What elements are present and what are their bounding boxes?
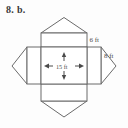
left-triangle-flap bbox=[12, 47, 27, 84]
right-rect-flap bbox=[87, 47, 101, 84]
label-center-width: 15 ft bbox=[56, 63, 68, 70]
bottom-rect-flap bbox=[41, 84, 87, 101]
label-top-flap-height: 6 ft bbox=[90, 36, 100, 44]
label-right-triangle-side: 8 ft bbox=[104, 52, 114, 60]
figure-root: 8. b. bbox=[0, 0, 128, 128]
top-triangle-flap bbox=[41, 18, 87, 34]
net-diagram: 6 ft 8 ft 15 ft bbox=[0, 0, 128, 128]
left-rect-flap bbox=[27, 47, 41, 84]
top-rect-flap bbox=[41, 33, 87, 47]
bottom-triangle-flap bbox=[41, 101, 87, 117]
